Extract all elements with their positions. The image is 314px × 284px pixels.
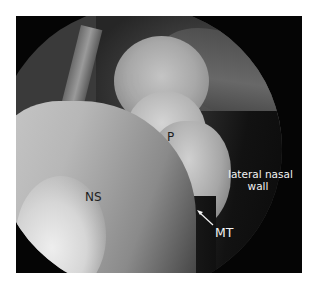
endoscopic-view: [16, 16, 282, 273]
endoscope-frame: [16, 16, 302, 273]
label-nasal-septum: NS: [85, 191, 102, 203]
label-middle-turbinate: MT: [215, 227, 233, 239]
label-polyp: P: [167, 131, 174, 143]
mucosal-highlight: [120, 74, 140, 100]
label-lateral-nasal-wall: lateral nasal wall: [228, 168, 288, 192]
label-lateral-line1: lateral nasal: [228, 168, 288, 180]
label-lateral-line2: wall: [228, 180, 288, 192]
